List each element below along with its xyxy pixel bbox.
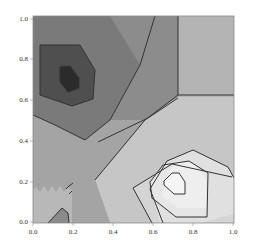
y-axis-labels: 0.0 0.2 0.4 0.6 0.8 1.0 [19, 15, 28, 226]
y-tick-label: 0.4 [19, 137, 28, 145]
x-tick-label: 0.2 [69, 228, 78, 236]
y-tick-label: 1.0 [19, 15, 28, 23]
y-tick-label: 0.6 [19, 96, 28, 104]
x-tick-label: 0.6 [149, 228, 158, 236]
x-axis-labels: 0.0 0.2 0.4 0.6 0.8 1.0 [29, 228, 238, 236]
y-tick-label: 0.0 [19, 218, 28, 226]
y-tick-label: 0.2 [19, 178, 28, 186]
contour-plot: 0.0 0.2 0.4 0.6 0.8 1.0 0.0 0.2 0.4 0.6 … [0, 0, 253, 251]
y-tick-label: 0.8 [19, 55, 28, 63]
x-tick-label: 1.0 [229, 228, 238, 236]
x-tick-label: 0.8 [189, 228, 198, 236]
contour-fill-plateau [178, 16, 234, 97]
x-tick-label: 0.0 [29, 228, 38, 236]
x-tick-label: 0.4 [109, 228, 118, 236]
plot-area [33, 16, 234, 223]
